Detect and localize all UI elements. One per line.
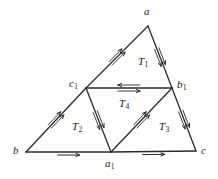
region-label-T1: T1 bbox=[138, 56, 148, 67]
marker-shaft bbox=[112, 52, 125, 65]
edge-a-b1 bbox=[148, 26, 172, 88]
marker-shaft bbox=[134, 112, 146, 125]
vertex-label-c: c bbox=[201, 145, 206, 156]
marker-shaft bbox=[109, 49, 122, 62]
vertex-label-subscript: 1 bbox=[74, 82, 78, 91]
marker-shaft bbox=[48, 112, 60, 125]
geometry-figure: abcc1b1a1 T1T4T2T3 bbox=[0, 0, 218, 179]
region-label-subscript: 1 bbox=[144, 60, 148, 69]
region-label-subscript: 2 bbox=[78, 125, 82, 134]
vertex-label-a1: a1 bbox=[105, 158, 114, 169]
region-label-subscript: 4 bbox=[125, 102, 129, 111]
vertex-label-text: c bbox=[201, 144, 206, 156]
vertex-label-text: a bbox=[105, 157, 111, 169]
vertex-label-a: a bbox=[144, 6, 150, 17]
edge-a1-c bbox=[111, 151, 196, 152]
edge-c1-a1 bbox=[86, 88, 111, 152]
region-label-subscript: 3 bbox=[165, 125, 169, 134]
vertex-label-subscript: 1 bbox=[183, 83, 187, 92]
vertex-label-text: b bbox=[13, 144, 19, 156]
marker-shaft bbox=[137, 115, 149, 128]
edge-marker-a1-c bbox=[143, 153, 165, 156]
vertex-label-b: b bbox=[13, 145, 19, 156]
marker-shaft bbox=[52, 115, 64, 128]
edge-layer bbox=[26, 26, 196, 152]
vertex-label-text: b bbox=[177, 78, 183, 90]
edge-marker-b-a1 bbox=[58, 153, 80, 156]
vertex-label-text: a bbox=[144, 5, 150, 17]
vertex-label-b1: b1 bbox=[177, 79, 186, 90]
region-label-T2: T2 bbox=[72, 121, 82, 132]
vertex-label-subscript: 1 bbox=[111, 162, 115, 171]
edge-b1-c bbox=[172, 88, 196, 151]
region-label-T4: T4 bbox=[119, 98, 129, 109]
vertex-label-c1: c1 bbox=[69, 78, 78, 89]
region-label-T3: T3 bbox=[159, 121, 169, 132]
